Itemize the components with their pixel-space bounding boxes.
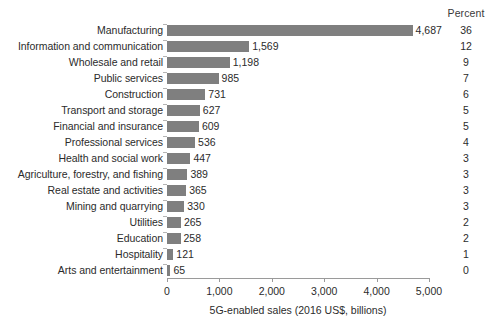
category-label: Hospitality (0, 246, 163, 262)
bar-row: Information and communication1,56912 (0, 38, 497, 54)
percent-value: 2 (440, 230, 492, 246)
bar-value-label: 258 (184, 230, 202, 246)
category-label: Construction (0, 86, 163, 102)
bar (167, 121, 199, 132)
x-axis-tick-label: 5,000 (399, 285, 459, 297)
bar-row: Arts and entertainment650 (0, 262, 497, 278)
x-axis-tick (219, 278, 220, 282)
bar-value-label: 65 (173, 262, 185, 278)
percent-value: 5 (440, 102, 492, 118)
bar-value-label: 1,198 (233, 54, 259, 70)
percent-value: 4 (440, 134, 492, 150)
bar (167, 153, 190, 164)
bar-value-label: 985 (222, 70, 240, 86)
category-label: Wholesale and retail (0, 54, 163, 70)
category-label: Mining and quarrying (0, 198, 163, 214)
bar-value-label: 4,687 (416, 22, 442, 38)
bar (167, 105, 200, 116)
plot-area: Manufacturing4,68736Information and comm… (0, 22, 497, 278)
bar (167, 73, 219, 84)
x-axis-tick-label: 0 (137, 285, 197, 297)
x-axis-tick (429, 278, 430, 282)
percent-value: 2 (440, 214, 492, 230)
bar-row: Utilities2652 (0, 214, 497, 230)
percent-value: 1 (440, 246, 492, 262)
category-label: Real estate and activities (0, 182, 163, 198)
bar (167, 233, 181, 244)
bar-row: Hospitality1211 (0, 246, 497, 262)
x-axis-tick-label: 3,000 (294, 285, 354, 297)
bar (167, 41, 249, 52)
bar-value-label: 536 (198, 134, 216, 150)
bar-row: Public services9857 (0, 70, 497, 86)
category-label: Manufacturing (0, 22, 163, 38)
bar (167, 137, 195, 148)
bar (167, 217, 181, 228)
category-label: Information and communication (0, 38, 163, 54)
percent-value: 0 (440, 262, 492, 278)
bar-value-label: 330 (187, 198, 205, 214)
category-label: Professional services (0, 134, 163, 150)
percent-value: 9 (440, 54, 492, 70)
bar (167, 25, 413, 36)
bar (167, 201, 184, 212)
bar-value-label: 447 (193, 150, 211, 166)
percent-value: 3 (440, 150, 492, 166)
bar-row: Financial and insurance6095 (0, 118, 497, 134)
category-label: Health and social work (0, 150, 163, 166)
bar (167, 185, 186, 196)
x-axis-tick (167, 278, 168, 282)
category-label: Transport and storage (0, 102, 163, 118)
bar-row: Professional services5364 (0, 134, 497, 150)
percent-value: 3 (440, 182, 492, 198)
x-axis-tick-label: 1,000 (189, 285, 249, 297)
bar-row: Health and social work4473 (0, 150, 497, 166)
bar-value-label: 121 (176, 246, 194, 262)
bar-value-label: 609 (202, 118, 220, 134)
bar-value-label: 1,569 (252, 38, 278, 54)
bar (167, 57, 230, 68)
percent-value: 36 (440, 22, 492, 38)
bar (167, 265, 170, 276)
bar-value-label: 731 (208, 86, 226, 102)
x-axis-tick-label: 4,000 (347, 285, 407, 297)
bar-row: Mining and quarrying3303 (0, 198, 497, 214)
x-axis-tick (272, 278, 273, 282)
bar (167, 249, 173, 260)
x-axis-tick (324, 278, 325, 282)
category-label: Arts and entertainment (0, 262, 163, 278)
bar-row: Manufacturing4,68736 (0, 22, 497, 38)
bar-row: Transport and storage6275 (0, 102, 497, 118)
bar-row: Real estate and activities3653 (0, 182, 497, 198)
percent-value: 3 (440, 166, 492, 182)
bar-row: Agriculture, forestry, and fishing3893 (0, 166, 497, 182)
bar-value-label: 627 (203, 102, 221, 118)
percent-value: 7 (440, 70, 492, 86)
x-axis-title: 5G-enabled sales (2016 US$, billions) (167, 304, 429, 316)
x-axis-tick (377, 278, 378, 282)
x-axis-tick-label: 2,000 (242, 285, 302, 297)
percent-value: 5 (440, 118, 492, 134)
percent-column-header: Percent (440, 7, 492, 19)
category-label: Agriculture, forestry, and fishing (0, 166, 163, 182)
x-axis-line (167, 278, 429, 279)
bar (167, 89, 205, 100)
category-label: Education (0, 230, 163, 246)
bar-chart: Percent Manufacturing4,68736Information … (0, 0, 497, 332)
bar (167, 169, 187, 180)
bar-value-label: 265 (184, 214, 202, 230)
bar-row: Wholesale and retail1,1989 (0, 54, 497, 70)
percent-value: 3 (440, 198, 492, 214)
category-label: Financial and insurance (0, 118, 163, 134)
bar-row: Education2582 (0, 230, 497, 246)
percent-value: 6 (440, 86, 492, 102)
category-label: Utilities (0, 214, 163, 230)
bar-value-label: 389 (190, 166, 208, 182)
bar-row: Construction7316 (0, 86, 497, 102)
bar-value-label: 365 (189, 182, 207, 198)
percent-value: 12 (440, 38, 492, 54)
category-label: Public services (0, 70, 163, 86)
